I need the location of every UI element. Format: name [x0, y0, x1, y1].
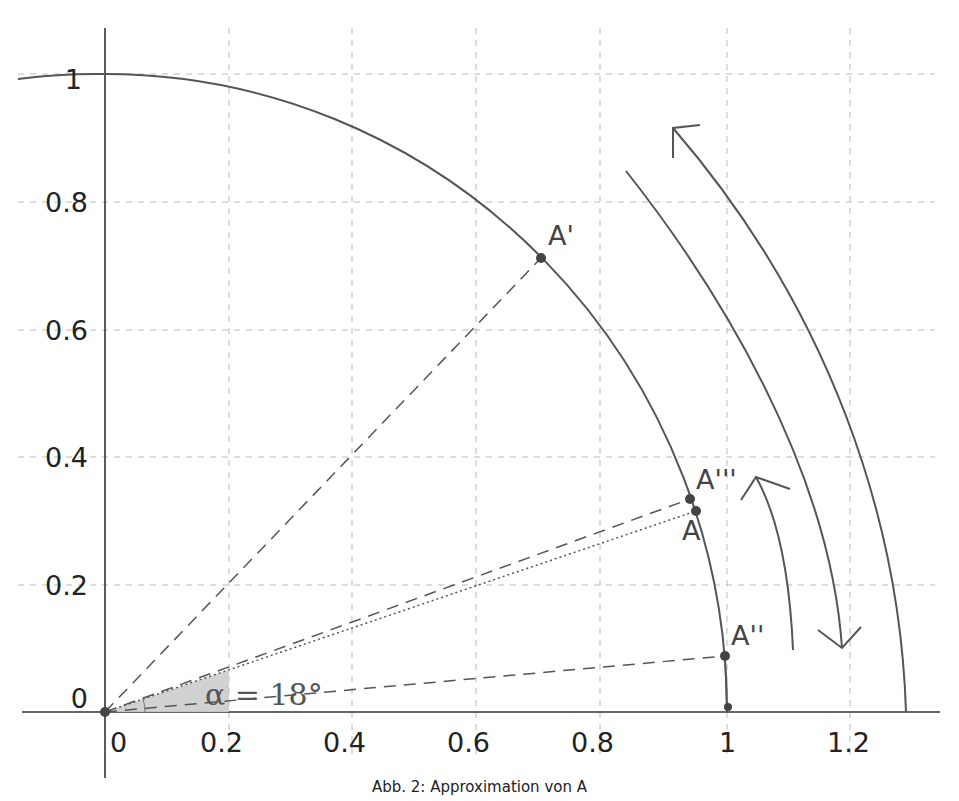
svg-text:0.4: 0.4: [323, 727, 366, 758]
label-a-prime: A': [548, 220, 574, 251]
axes: [22, 28, 940, 778]
svg-text:0.6: 0.6: [45, 315, 88, 346]
point-labels: A' A''' A A'' α = 18°: [205, 220, 764, 712]
rotation-arrows: [626, 125, 906, 712]
middle-arrow-arc: [626, 171, 842, 648]
x-tick-labels: 0 0.2 0.4 0.6 0.8 1 1.2: [110, 727, 870, 758]
point-a-triple: [685, 494, 695, 504]
svg-text:0.8: 0.8: [571, 727, 614, 758]
ray-a-triple: [105, 499, 690, 712]
y-tick-labels: 0 0.2 0.4 0.6 0.8 1: [45, 64, 88, 714]
svg-text:1: 1: [65, 64, 82, 95]
rays: [105, 258, 725, 712]
grid: [18, 28, 935, 760]
point-a-double: [720, 651, 730, 661]
label-a: A: [682, 515, 701, 546]
outer-arrow-arc: [673, 128, 906, 712]
figure-caption: Abb. 2: Approximation von A: [0, 778, 959, 796]
svg-text:0.2: 0.2: [45, 570, 88, 601]
approximation-diagram: 0 0.2 0.4 0.6 0.8 1 1.2 0 0.2 0.4 0.6 0.…: [0, 0, 959, 801]
svg-text:1: 1: [719, 727, 736, 758]
point-a-prime: [536, 253, 546, 263]
svg-text:0.4: 0.4: [45, 442, 88, 473]
svg-text:0: 0: [110, 727, 127, 758]
outer-arrowhead-icon: [673, 125, 700, 158]
label-a-triple: A''': [696, 464, 737, 495]
svg-text:1.2: 1.2: [827, 727, 870, 758]
unit-circle-arc: [18, 74, 727, 712]
point-one-zero: [724, 703, 732, 711]
ray-a: [105, 511, 696, 712]
points: [100, 253, 732, 717]
svg-text:0: 0: [71, 683, 88, 714]
svg-text:0.2: 0.2: [200, 727, 243, 758]
point-origin: [100, 707, 110, 717]
svg-text:0.8: 0.8: [45, 187, 88, 218]
angle-label: α = 18°: [205, 677, 323, 712]
svg-text:0.6: 0.6: [447, 727, 490, 758]
label-a-double: A'': [731, 620, 764, 651]
